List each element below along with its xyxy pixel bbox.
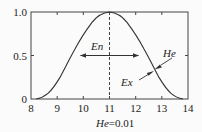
caption: He=0.01 — [95, 117, 134, 129]
x-tick-label: 10 — [78, 102, 90, 114]
ex-label: Ex — [120, 76, 133, 88]
y-tick-labels: 0 0.5 1.0 — [13, 6, 27, 105]
caption-value: =0.01 — [109, 117, 134, 129]
en-arrow-left-head-icon — [80, 53, 86, 57]
x-tick-label: 13 — [156, 102, 168, 114]
x-tick-label: 9 — [54, 102, 60, 114]
en-arrow-right-head-icon — [133, 53, 139, 57]
ex-arrow-line — [139, 74, 149, 80]
x-tick-label: 11 — [104, 102, 115, 114]
en-label: En — [90, 40, 104, 52]
y-tick-label: 0 — [22, 93, 28, 105]
chart: 8 9 10 11 12 13 14 0 0.5 1.0 En He Ex He… — [0, 0, 202, 132]
caption-he: He — [95, 117, 109, 129]
x-tick-label: 14 — [183, 102, 195, 114]
x-tick-label: 12 — [130, 102, 141, 114]
y-tick-label: 1.0 — [13, 6, 27, 18]
x-tick-label: 8 — [28, 102, 34, 114]
he-arrow-head-icon — [155, 65, 162, 70]
he-arrow-line — [161, 58, 172, 65]
x-tick-labels: 8 9 10 11 12 13 14 — [28, 102, 194, 114]
y-tick-label: 0.5 — [13, 50, 27, 62]
he-label: He — [162, 47, 176, 59]
